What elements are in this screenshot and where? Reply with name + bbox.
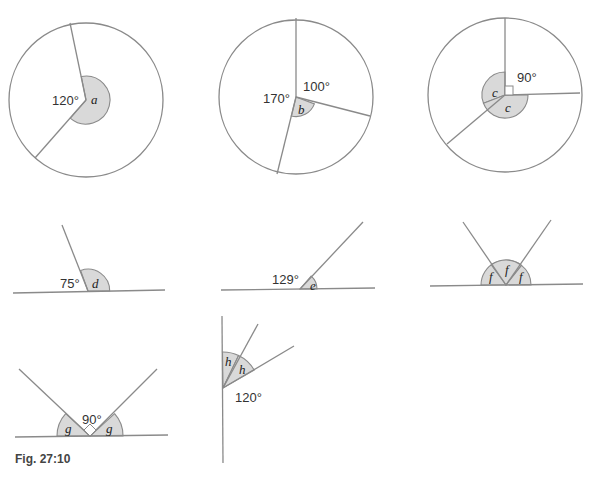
diagram-c: 90° c c (428, 18, 582, 172)
diagram-e: 129° e (221, 222, 375, 293)
angle-var-e: e (310, 278, 316, 293)
angle-var-b: b (298, 102, 305, 117)
angle-label-90: 90° (82, 412, 102, 427)
angle-var-d: d (92, 276, 99, 291)
diagram-a: 120° a (9, 23, 163, 177)
diagram-b: 170° 100° b (219, 18, 373, 174)
right-angle-marker (505, 86, 513, 95)
vertical-line (222, 316, 223, 463)
straight-line (221, 288, 375, 290)
figure-canvas: 120° a 170° 100° b 90° c c 75° d (0, 0, 599, 479)
angle-var-a: a (91, 92, 98, 107)
angle-label-75: 75° (60, 276, 80, 291)
angle-label-120: 120° (235, 390, 262, 405)
figure-caption: Fig. 27:10 (15, 452, 71, 466)
angle-var-g: g (106, 421, 113, 436)
ray-line (19, 369, 90, 436)
angle-var-h: h (239, 362, 246, 377)
angle-label-120: 120° (52, 93, 79, 108)
angle-var-c: c (505, 100, 511, 115)
angle-var-g: g (65, 421, 72, 436)
angle-label-90: 90° (517, 70, 537, 85)
diagram-g: 90° g g (15, 369, 168, 437)
diagram-h: 120° h h (222, 316, 294, 463)
angle-label-129: 129° (272, 272, 299, 287)
angle-var-c: c (492, 85, 498, 100)
diagram-d: 75° d (13, 225, 165, 293)
angle-label-100: 100° (303, 79, 330, 94)
angle-label-170: 170° (263, 91, 290, 106)
diagram-f: f f f (430, 220, 583, 286)
angle-var-h: h (225, 354, 232, 369)
